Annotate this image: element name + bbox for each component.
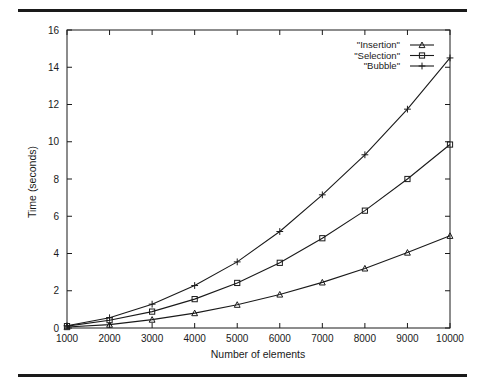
legend-label: "Bubble": [364, 60, 400, 71]
legend-label: "Selection": [354, 50, 400, 61]
y-tick-label: 8: [53, 174, 59, 185]
data-point: [234, 258, 241, 265]
series-1: [64, 142, 452, 329]
y-tick-label: 6: [53, 211, 59, 222]
series-line: [67, 58, 450, 326]
x-tick-label: 7000: [311, 333, 334, 344]
data-series-group: [64, 55, 454, 330]
x-tick-label: 3000: [141, 333, 164, 344]
y-tick-label: 14: [48, 62, 60, 73]
x-tick-label: 5000: [226, 333, 249, 344]
x-tick-label: 2000: [98, 333, 121, 344]
x-tick-label: 4000: [184, 333, 207, 344]
y-axis-ticks: [67, 30, 450, 328]
y-tick-label: 10: [48, 136, 60, 147]
x-axis-tick-labels: 1000200030004000500060007000800090001000…: [56, 333, 464, 344]
x-tick-label: 6000: [269, 333, 292, 344]
x-tick-label: 9000: [396, 333, 419, 344]
y-tick-label: 4: [53, 248, 59, 259]
figure-container: 0246810121416 10002000300040005000600070…: [0, 0, 485, 387]
x-axis-title: Number of elements: [211, 348, 306, 360]
data-point: [191, 282, 198, 289]
y-tick-label: 12: [48, 99, 60, 110]
x-tick-label: 8000: [354, 333, 377, 344]
series-2: [64, 55, 454, 330]
y-tick-label: 2: [53, 285, 59, 296]
axes-frame: [67, 30, 450, 328]
y-tick-label: 16: [48, 25, 60, 36]
x-tick-label: 1000: [56, 333, 79, 344]
legend-label: "Insertion": [357, 39, 400, 50]
data-point: [149, 301, 156, 308]
x-tick-label: 10000: [436, 333, 464, 344]
chart-legend: "Insertion""Selection""Bubble": [354, 39, 434, 71]
y-tick-label: 0: [53, 323, 59, 334]
y-axis-tick-labels: 0246810121416: [48, 25, 60, 334]
chart-plot-area: 0246810121416 10002000300040005000600070…: [0, 0, 485, 387]
series-line: [67, 145, 450, 327]
line-chart: 0246810121416 10002000300040005000600070…: [0, 0, 485, 387]
y-axis-title: Time (seconds): [26, 146, 38, 218]
plot-frame: [67, 30, 450, 328]
x-axis-ticks: [67, 30, 450, 328]
legend-sample-marker: [419, 63, 426, 70]
